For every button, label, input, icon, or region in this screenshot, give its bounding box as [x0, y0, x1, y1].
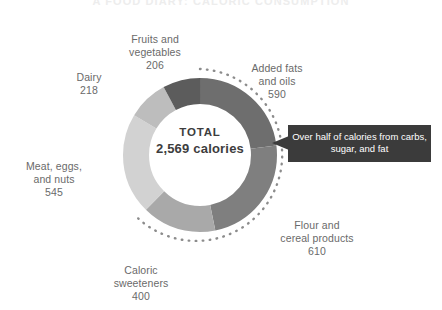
label-fruits-and-vegetables-name: Fruits and vegetables — [129, 33, 181, 58]
callout-tail-icon — [272, 136, 289, 150]
label-meat-eggs-and-nuts: Meat, eggs, and nuts 545 — [2, 147, 106, 212]
label-flour-and-cereal-products: Flour and cereal products 610 — [252, 206, 382, 271]
label-flour-and-cereal-products-value: 610 — [252, 245, 382, 258]
label-added-fats-and-oils-name: Added fats and oils — [251, 62, 302, 87]
label-added-fats-and-oils: Added fats and oils 590 — [222, 49, 332, 114]
total-value: 2,569 calories — [131, 141, 269, 156]
label-flour-and-cereal-products-name: Flour and cereal products — [280, 219, 353, 244]
label-dairy: Dairy 218 — [50, 58, 128, 110]
label-dairy-name: Dairy — [76, 71, 101, 83]
total-label: TOTAL — [131, 126, 269, 138]
label-meat-eggs-and-nuts-name: Meat, eggs, and nuts — [26, 160, 82, 185]
donut-center-total: TOTAL 2,569 calories — [131, 126, 269, 156]
label-caloric-sweeteners: Caloric sweeteners 400 — [86, 251, 196, 310]
label-dairy-value: 218 — [50, 84, 128, 97]
callout-annotation: Over half of calories from carbs, sugar,… — [288, 125, 431, 162]
label-caloric-sweeteners-value: 400 — [86, 290, 196, 303]
label-caloric-sweeteners-name: Caloric sweeteners — [114, 264, 169, 289]
label-added-fats-and-oils-value: 590 — [222, 88, 332, 101]
label-meat-eggs-and-nuts-value: 545 — [2, 186, 106, 199]
chart-canvas: A FOOD DIARY: CALORIC CONSUMPTION TOTAL … — [0, 0, 442, 310]
